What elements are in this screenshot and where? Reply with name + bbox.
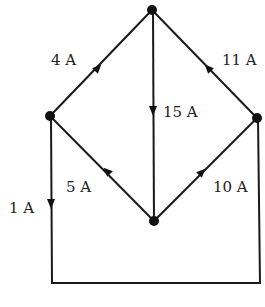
node-top xyxy=(147,5,157,15)
arrow-up-right-icon xyxy=(92,62,104,74)
label-current-right-top: 11 A xyxy=(222,51,257,69)
arrow-up-left-icon xyxy=(101,165,113,177)
wire-bottom-left xyxy=(50,116,154,221)
label-current-left-top: 4 A xyxy=(51,51,76,69)
wire-bottom-right xyxy=(154,118,257,221)
wire-outer-loop xyxy=(51,116,260,283)
label-current-bottom-right: 10 A xyxy=(213,178,248,196)
node-bottom xyxy=(149,216,159,226)
arrow-down-icon xyxy=(149,106,157,116)
label-current-top-bottom: 15 A xyxy=(163,103,198,121)
label-current-bottom-left: 5 A xyxy=(66,178,91,196)
circuit-diagram: 4 A 15 A 11 A 5 A 10 A 1 A xyxy=(0,0,265,307)
arrow-down-icon xyxy=(47,199,55,209)
node-right xyxy=(252,113,262,123)
node-left xyxy=(45,111,55,121)
label-current-outer-loop: 1 A xyxy=(9,199,34,217)
